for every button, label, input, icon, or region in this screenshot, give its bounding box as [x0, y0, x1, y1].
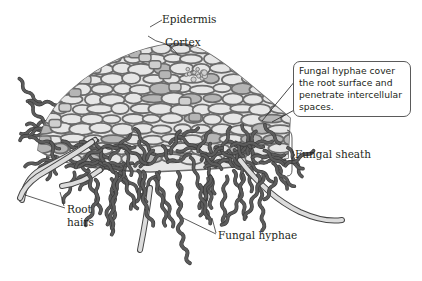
- label-root-hairs-line2: hairs: [67, 216, 94, 228]
- epidermis-cell: [139, 54, 151, 62]
- callout-box: Fungal hyphae cover the root surface and…: [293, 61, 411, 117]
- epidermis-cell: [149, 61, 161, 69]
- cortex-cell: [289, 44, 314, 55]
- cortex-cell: [270, 64, 295, 76]
- cortex-cell: [143, 115, 161, 123]
- cortex-cell: [270, 45, 291, 55]
- cortex-cell: [242, 73, 266, 84]
- cortex-cell: [125, 93, 143, 104]
- cortex-cell: [203, 94, 221, 102]
- epidermis-cell: [179, 97, 191, 105]
- cortex-cell: [262, 74, 283, 84]
- cortex-cell: [33, 85, 50, 94]
- root-hairs-leader: [25, 192, 65, 208]
- label-fungal-sheath: Fungal sheath: [295, 148, 371, 160]
- cortex-cell: [225, 55, 242, 65]
- epidermis-cell: [159, 71, 171, 79]
- cortex-cell: [213, 84, 231, 92]
- cortex-cell: [50, 63, 76, 75]
- cortex-cell: [71, 43, 93, 54]
- callout-line: Fungal hyphae cover: [299, 65, 405, 77]
- cortex-cell: [211, 44, 231, 53]
- label-root-hairs-line1: Root: [67, 203, 92, 215]
- label-fungal-hyphae: Fungal hyphae: [218, 229, 297, 241]
- epidermis-cell: [59, 104, 71, 112]
- cortex-cell: [230, 64, 251, 73]
- cortex-cell: [249, 65, 272, 75]
- cortex-cell: [60, 72, 82, 84]
- cortex-cell: [263, 53, 285, 64]
- cortex-cell: [91, 84, 112, 94]
- epidermis-leader: [150, 20, 162, 27]
- cortex-cell: [203, 114, 221, 124]
- cortex-cell: [69, 63, 92, 75]
- cortex-cell: [91, 45, 114, 53]
- cortex-cell: [291, 124, 310, 133]
- vascular-cell: [187, 72, 191, 76]
- vascular-cell: [191, 77, 196, 82]
- label-epidermis: Epidermis: [162, 13, 216, 25]
- cortex-cell: [42, 74, 59, 82]
- vascular-cell: [192, 71, 196, 75]
- fungal-hyphae-dangling: [85, 171, 276, 263]
- cortex-cell: [151, 125, 171, 133]
- cortex-cell: [240, 54, 265, 62]
- cortex-cell: [61, 54, 83, 63]
- cortex-cell: [102, 115, 120, 123]
- epidermis-cell: [49, 119, 61, 127]
- cortex-cell: [27, 45, 52, 54]
- callout-line: the root surface and: [299, 77, 405, 89]
- cortex-cell: [262, 93, 285, 103]
- cortex-cell: [81, 54, 106, 62]
- epidermis-cell: [79, 76, 91, 84]
- cortex-cell: [231, 44, 250, 55]
- cortex-cell: [301, 134, 326, 145]
- cortex-cell: [223, 93, 244, 104]
- callout-line: spaces.: [299, 101, 405, 113]
- cortex-cell: [87, 104, 113, 113]
- epidermis-cell: [109, 51, 121, 59]
- cortex-cell: [111, 103, 129, 114]
- vascular-cell: [201, 70, 207, 76]
- cortex-cell: [29, 64, 52, 76]
- cortex-cell: [249, 84, 275, 94]
- cortex-cell: [52, 44, 71, 55]
- cortex-cell: [122, 114, 144, 124]
- cortex-cell: [270, 83, 293, 93]
- cortex-cell: [122, 73, 140, 84]
- vascular-cell: [186, 67, 190, 71]
- callout-line: penetrate intercellular: [299, 89, 405, 101]
- cortex-cell: [29, 143, 52, 153]
- cortex-cell: [250, 44, 270, 53]
- vascular-cell: [197, 74, 201, 78]
- label-cortex: Cortex: [165, 36, 201, 48]
- cortex-cell: [41, 54, 64, 66]
- diagram-stage: Epidermis Cortex Fungal sheath Root hair…: [0, 0, 422, 281]
- epidermis-cell: [169, 83, 181, 91]
- cortex-cell: [111, 46, 135, 54]
- cortex-cell: [90, 123, 112, 133]
- cortex-cell: [160, 113, 182, 123]
- epidermis-cell: [189, 113, 201, 121]
- root-illustration: [0, 0, 422, 281]
- vascular-cell: [196, 67, 200, 71]
